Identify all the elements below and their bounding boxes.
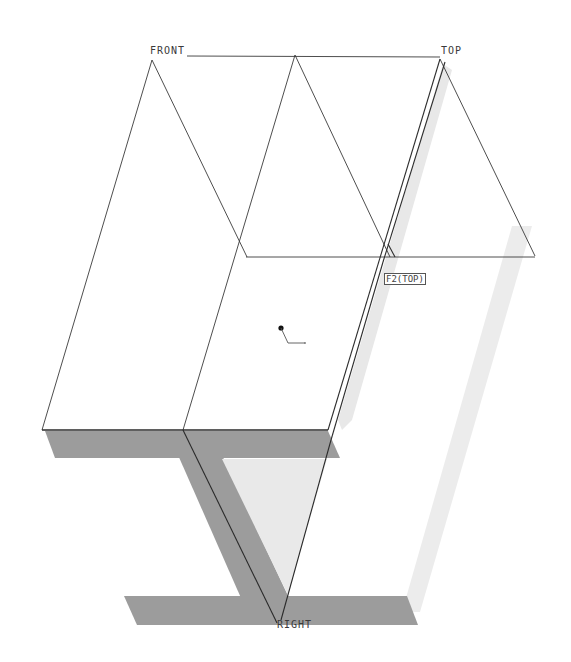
top-datum-label[interactable]: TOP <box>441 46 462 56</box>
top-datum-plane[interactable] <box>246 59 535 257</box>
model-geometry[interactable] <box>0 0 571 662</box>
sketch-feature-tag[interactable]: F2(TOP) <box>384 273 426 285</box>
origin-leader-icon <box>281 328 305 343</box>
origin-marker[interactable] <box>278 325 306 344</box>
right-datum-label[interactable]: RIGHT <box>277 620 312 630</box>
front-datum-plane[interactable] <box>42 56 440 430</box>
model-viewport[interactable]: FRONT TOP RIGHT F2(TOP) <box>0 0 571 662</box>
top-edge-shadow-band <box>338 64 452 430</box>
front-datum-label[interactable]: FRONT <box>150 46 185 56</box>
top-edge-lines <box>328 59 445 440</box>
top-flange-shadow <box>45 431 340 458</box>
